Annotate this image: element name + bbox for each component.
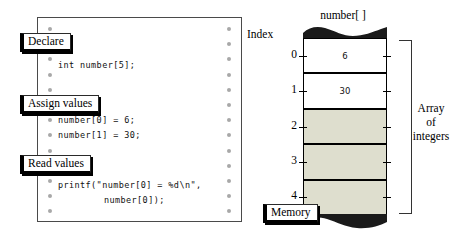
listing-hole (227, 88, 231, 92)
figure-root: int number[5];number[0] = 6;number[1] = … (0, 0, 457, 232)
code-line: number[1] = 30; (58, 130, 141, 140)
index-number: 1 (283, 83, 297, 95)
listing-hole (227, 149, 231, 153)
index-number: 4 (283, 189, 297, 201)
code-line: printf("number[0] = %d\n", (58, 180, 201, 190)
memory-cells: 630 (303, 38, 387, 215)
listing-hole (48, 194, 52, 198)
listing-hole (227, 209, 231, 213)
listing-hole (227, 179, 231, 183)
listing-hole (48, 118, 52, 122)
listing-hole (48, 57, 52, 61)
listing-hole (227, 118, 231, 122)
listing-hole (227, 133, 231, 137)
array-of-integers-line: Array (405, 101, 457, 115)
listing-hole (227, 27, 231, 31)
code-line: number[0] = 6; (58, 115, 135, 125)
listing-hole (48, 179, 52, 183)
cell-tick (383, 197, 391, 198)
listing-hole (227, 57, 231, 61)
array-name-label: number[ ] (293, 9, 393, 21)
code-line: int number[5]; (58, 60, 135, 70)
listing-hole (227, 194, 231, 198)
array-of-integers-line: integers (405, 129, 457, 143)
cell-tick (383, 91, 391, 92)
listing-hole (48, 149, 52, 153)
cell-tick (299, 91, 307, 92)
listing-hole (48, 133, 52, 137)
array-of-integers-line: of (405, 115, 457, 129)
cell-tick (383, 56, 391, 57)
callout-assign-values: Assign values (20, 95, 99, 114)
cell-tick (383, 162, 391, 163)
listing-hole (227, 103, 231, 107)
cell-tick (383, 127, 391, 128)
array-of-integers-label: Arrayofintegers (405, 101, 457, 143)
index-number: 0 (283, 48, 297, 60)
index-number: 2 (283, 119, 297, 131)
listing-hole (227, 42, 231, 46)
memory-callout: Memory (263, 204, 318, 223)
memory-cell (303, 144, 387, 179)
listing-hole (227, 164, 231, 168)
memory-cell: 6 (303, 38, 387, 73)
memory-cell-value: 6 (304, 39, 386, 74)
memory-cell-value: 30 (304, 74, 386, 109)
memory-diagram: number[ ] Index 01234 630 Memory Arrayof… (247, 8, 457, 232)
listing-hole (48, 209, 52, 213)
callout-declare: Declare (20, 33, 71, 52)
memory-cell: 30 (303, 73, 387, 108)
cell-tick (299, 197, 307, 198)
index-number: 3 (283, 154, 297, 166)
memory-cell (303, 109, 387, 144)
listing-hole (48, 73, 52, 77)
listing-hole (48, 27, 52, 31)
cell-tick (299, 162, 307, 163)
cell-tick (299, 127, 307, 128)
cell-tick (299, 56, 307, 57)
listing-hole (227, 73, 231, 77)
callout-read-values: Read values (20, 155, 91, 174)
code-line: number[0]); (104, 195, 165, 205)
index-column-label: Index (247, 28, 273, 40)
listing-holes-right (227, 18, 232, 221)
listing-hole (48, 88, 52, 92)
